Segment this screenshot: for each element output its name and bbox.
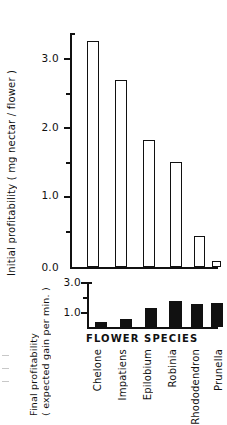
scan-artifact	[2, 355, 9, 356]
lower-tick-mark-1.0	[81, 312, 87, 314]
upper-tick-mark-2.0	[64, 127, 70, 129]
lower-tick-mark-2.0	[83, 297, 87, 299]
bar-upper-epilobium	[143, 140, 155, 267]
lower-y-axis-line	[87, 282, 89, 328]
lower-y-axis-top-cap	[87, 282, 92, 284]
bar-lower-chelone	[95, 322, 107, 327]
bar-upper-rhododendron	[194, 236, 205, 267]
scan-artifact	[2, 368, 9, 369]
upper-x-axis-line	[70, 267, 218, 269]
bar-lower-prunella	[211, 303, 223, 327]
upper-tick-label-2: 2.0	[33, 121, 59, 133]
species-label-epilobium: Epilobium	[142, 349, 153, 400]
bar-lower-epilobium	[145, 308, 157, 327]
lower-tick-label-3: 3.0	[55, 276, 81, 288]
x-axis-caption: FLOWER SPECIES	[86, 333, 198, 344]
species-label-chelone: Chelone	[92, 349, 103, 391]
bar-upper-prunella	[212, 261, 221, 267]
bar-lower-robinia	[169, 301, 182, 327]
lower-panel-y-axis-title-line1: Final profitability	[28, 268, 39, 416]
species-label-impatiens: Impatiens	[117, 349, 128, 400]
upper-panel-y-axis-title: Initial profitability ( mg nectar / flow…	[6, 8, 17, 276]
upper-y-axis-top-cap	[70, 33, 75, 35]
upper-tick-mark-1.5	[66, 162, 70, 164]
bar-lower-impatiens	[120, 319, 132, 327]
bar-upper-impatiens	[115, 80, 127, 267]
lower-x-axis-line	[87, 327, 218, 329]
scan-artifact	[2, 381, 9, 382]
lower-panel-y-axis-title-line2: ( expected gain per min. )	[40, 268, 51, 416]
bar-lower-rhododendron	[191, 304, 203, 327]
species-label-rhododendron: Rhododendron	[190, 349, 201, 425]
species-label-robinia: Robinia	[167, 349, 178, 387]
upper-tick-label-1: 1.0	[33, 189, 59, 201]
upper-tick-label-3: 3.0	[33, 52, 59, 64]
bar-upper-chelone	[87, 41, 99, 267]
upper-tick-mark-1.0	[64, 196, 70, 198]
lower-tick-mark-3.0	[81, 282, 87, 284]
upper-y-axis-line	[70, 33, 72, 269]
lower-tick-label-1: 1.0	[55, 306, 81, 318]
upper-tick-mark-0.5	[66, 231, 70, 233]
species-label-prunella: Prunella	[213, 349, 224, 391]
bar-upper-robinia	[170, 162, 182, 267]
upper-tick-mark-2.5	[66, 93, 70, 95]
upper-tick-mark-3.0	[64, 58, 70, 60]
